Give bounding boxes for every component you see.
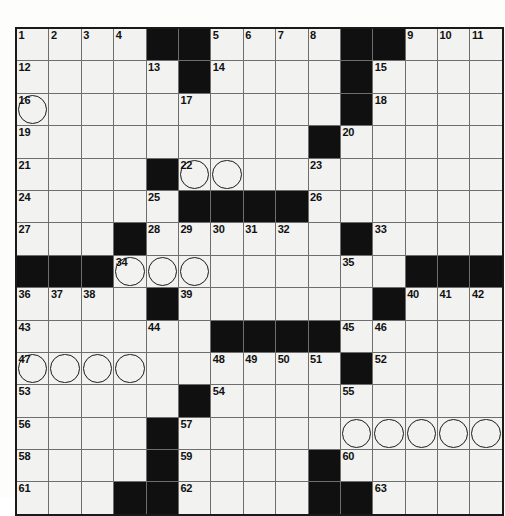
letter-cell[interactable] — [309, 61, 340, 92]
letter-cell[interactable] — [49, 191, 80, 222]
letter-cell[interactable] — [373, 418, 404, 449]
letter-cell[interactable]: 23 — [309, 159, 340, 190]
letter-cell[interactable]: 27 — [17, 223, 48, 254]
letter-cell[interactable] — [244, 126, 275, 157]
letter-cell[interactable]: 33 — [373, 223, 404, 254]
letter-cell[interactable] — [82, 385, 113, 416]
letter-cell[interactable]: 37 — [49, 288, 80, 319]
letter-cell[interactable]: 22 — [179, 159, 210, 190]
letter-cell[interactable]: 53 — [17, 385, 48, 416]
letter-cell[interactable] — [276, 418, 307, 449]
letter-cell[interactable] — [211, 159, 242, 190]
letter-cell[interactable]: 59 — [179, 450, 210, 481]
letter-cell[interactable] — [309, 288, 340, 319]
letter-cell[interactable] — [244, 482, 275, 513]
letter-cell[interactable] — [341, 191, 372, 222]
letter-cell[interactable] — [147, 353, 178, 384]
letter-cell[interactable] — [49, 321, 80, 352]
letter-cell[interactable] — [114, 191, 145, 222]
letter-cell[interactable] — [179, 256, 210, 287]
letter-cell[interactable] — [82, 482, 113, 513]
letter-cell[interactable]: 62 — [179, 482, 210, 513]
letter-cell[interactable]: 48 — [211, 353, 242, 384]
letter-cell[interactable] — [211, 256, 242, 287]
letter-cell[interactable] — [373, 450, 404, 481]
letter-cell[interactable] — [438, 94, 469, 125]
letter-cell[interactable] — [276, 450, 307, 481]
letter-cell[interactable]: 60 — [341, 450, 372, 481]
letter-cell[interactable]: 12 — [17, 61, 48, 92]
letter-cell[interactable]: 14 — [211, 61, 242, 92]
letter-cell[interactable] — [309, 223, 340, 254]
letter-cell[interactable] — [438, 159, 469, 190]
letter-cell[interactable] — [276, 482, 307, 513]
letter-cell[interactable] — [49, 482, 80, 513]
letter-cell[interactable] — [373, 126, 404, 157]
letter-cell[interactable] — [341, 159, 372, 190]
letter-cell[interactable] — [82, 321, 113, 352]
letter-cell[interactable] — [49, 223, 80, 254]
letter-cell[interactable]: 11 — [470, 29, 501, 60]
letter-cell[interactable] — [244, 450, 275, 481]
letter-cell[interactable] — [470, 191, 501, 222]
letter-cell[interactable]: 5 — [211, 29, 242, 60]
letter-cell[interactable]: 19 — [17, 126, 48, 157]
letter-cell[interactable]: 41 — [438, 288, 469, 319]
letter-cell[interactable] — [406, 223, 437, 254]
letter-cell[interactable] — [211, 450, 242, 481]
letter-cell[interactable]: 44 — [147, 321, 178, 352]
letter-cell[interactable] — [470, 418, 501, 449]
letter-cell[interactable]: 15 — [373, 61, 404, 92]
letter-cell[interactable] — [373, 256, 404, 287]
letter-cell[interactable] — [244, 385, 275, 416]
letter-cell[interactable]: 18 — [373, 94, 404, 125]
letter-cell[interactable] — [438, 450, 469, 481]
letter-cell[interactable]: 4 — [114, 29, 145, 60]
letter-cell[interactable] — [406, 385, 437, 416]
letter-cell[interactable] — [147, 126, 178, 157]
letter-cell[interactable] — [179, 353, 210, 384]
letter-cell[interactable]: 34 — [114, 256, 145, 287]
crossword-grid[interactable]: 1234567891011121314151617181920212223242… — [15, 27, 504, 516]
letter-cell[interactable]: 7 — [276, 29, 307, 60]
letter-cell[interactable]: 1 — [17, 29, 48, 60]
letter-cell[interactable]: 57 — [179, 418, 210, 449]
letter-cell[interactable] — [82, 353, 113, 384]
letter-cell[interactable] — [470, 126, 501, 157]
letter-cell[interactable] — [470, 321, 501, 352]
letter-cell[interactable]: 29 — [179, 223, 210, 254]
letter-cell[interactable] — [438, 385, 469, 416]
letter-cell[interactable] — [114, 288, 145, 319]
letter-cell[interactable]: 35 — [341, 256, 372, 287]
letter-cell[interactable]: 50 — [276, 353, 307, 384]
letter-cell[interactable]: 25 — [147, 191, 178, 222]
letter-cell[interactable] — [114, 418, 145, 449]
letter-cell[interactable] — [373, 191, 404, 222]
letter-cell[interactable] — [82, 418, 113, 449]
letter-cell[interactable] — [244, 94, 275, 125]
letter-cell[interactable] — [244, 418, 275, 449]
letter-cell[interactable]: 26 — [309, 191, 340, 222]
letter-cell[interactable]: 46 — [373, 321, 404, 352]
letter-cell[interactable] — [82, 126, 113, 157]
letter-cell[interactable] — [49, 159, 80, 190]
letter-cell[interactable] — [276, 94, 307, 125]
letter-cell[interactable] — [341, 418, 372, 449]
letter-cell[interactable]: 38 — [82, 288, 113, 319]
letter-cell[interactable] — [114, 126, 145, 157]
letter-cell[interactable] — [49, 450, 80, 481]
letter-cell[interactable] — [49, 353, 80, 384]
letter-cell[interactable] — [276, 61, 307, 92]
letter-cell[interactable] — [114, 353, 145, 384]
letter-cell[interactable] — [211, 418, 242, 449]
letter-cell[interactable] — [438, 418, 469, 449]
letter-cell[interactable]: 24 — [17, 191, 48, 222]
letter-cell[interactable]: 10 — [438, 29, 469, 60]
letter-cell[interactable] — [276, 159, 307, 190]
letter-cell[interactable] — [470, 159, 501, 190]
letter-cell[interactable] — [470, 223, 501, 254]
letter-cell[interactable] — [470, 94, 501, 125]
letter-cell[interactable] — [114, 385, 145, 416]
letter-cell[interactable] — [406, 482, 437, 513]
letter-cell[interactable]: 17 — [179, 94, 210, 125]
